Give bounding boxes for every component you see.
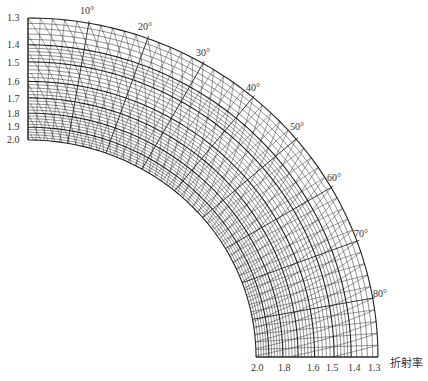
bottom-label-1-6: 1.6	[307, 363, 320, 373]
left-label-1-9: 1.9	[7, 122, 20, 132]
left-label-2-0: 2.0	[7, 135, 20, 145]
angle-label-40: 40°	[246, 83, 260, 93]
left-label-1-4: 1.4	[7, 40, 20, 50]
angle-label-30: 30°	[196, 48, 210, 58]
bottom-label-1-3: 1.3	[368, 363, 381, 373]
bottom-label-2-0: 2.0	[251, 363, 264, 373]
angle-label-10: 10°	[80, 6, 94, 16]
angle-label-80: 80°	[373, 289, 387, 299]
left-label-1-5: 1.5	[7, 58, 20, 68]
left-label-1-6: 1.6	[7, 77, 20, 87]
polar-grid	[0, 0, 428, 381]
left-label-1-7: 1.7	[7, 94, 20, 104]
axis-title-refractive-index: 折射率	[390, 354, 423, 370]
angle-label-50: 50°	[290, 122, 304, 132]
bottom-label-1-8: 1.8	[278, 363, 291, 373]
angle-label-20: 20°	[138, 22, 152, 32]
bottom-label-1-4: 1.4	[348, 363, 361, 373]
left-label-1-3: 1.3	[7, 13, 20, 23]
angle-label-70: 70°	[354, 229, 368, 239]
bottom-label-1-5: 1.5	[326, 363, 339, 373]
angle-label-60: 60°	[327, 173, 341, 183]
left-label-1-8: 1.8	[7, 109, 20, 119]
